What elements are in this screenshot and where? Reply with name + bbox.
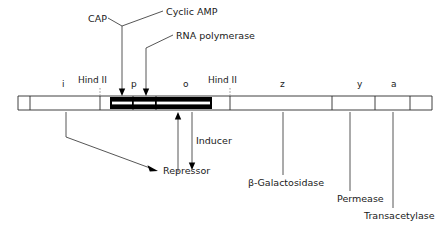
label-hind-ii-left: Hind II bbox=[78, 76, 107, 85]
label-gene-y: y bbox=[357, 80, 362, 89]
rna-polymerase-leader-line bbox=[143, 35, 173, 96]
label-cap: CAP bbox=[88, 14, 107, 24]
label-gene-z: z bbox=[280, 80, 285, 89]
cap-leader-line bbox=[108, 18, 125, 96]
repressor-leader-line bbox=[66, 112, 158, 172]
lac-operon-diagram: CAP Cyclic AMP RNA polymerase Hind II Hi… bbox=[0, 0, 443, 232]
label-repressor: Repressor bbox=[163, 166, 210, 176]
operon-highlight-bar bbox=[110, 97, 212, 109]
dna-backbone bbox=[18, 96, 432, 110]
inducer-arrows bbox=[175, 112, 195, 172]
label-gene-a: a bbox=[391, 80, 397, 89]
label-gene-p: p bbox=[131, 80, 137, 89]
label-gene-o: o bbox=[183, 80, 189, 89]
label-rna-polymerase: RNA polymerase bbox=[176, 31, 255, 41]
label-hind-ii-right: Hind II bbox=[208, 76, 237, 85]
dna-tick-marks bbox=[18, 96, 432, 110]
label-inducer: Inducer bbox=[196, 136, 232, 146]
cyclic-amp-leader-line bbox=[122, 11, 163, 26]
label-beta-galactosidase: β-Galactosidase bbox=[248, 178, 324, 188]
label-transacetylase: Transacetylase bbox=[364, 211, 435, 221]
label-permease: Permease bbox=[337, 194, 384, 204]
label-cyclic-amp: Cyclic AMP bbox=[166, 7, 217, 17]
label-gene-i: i bbox=[62, 80, 65, 89]
